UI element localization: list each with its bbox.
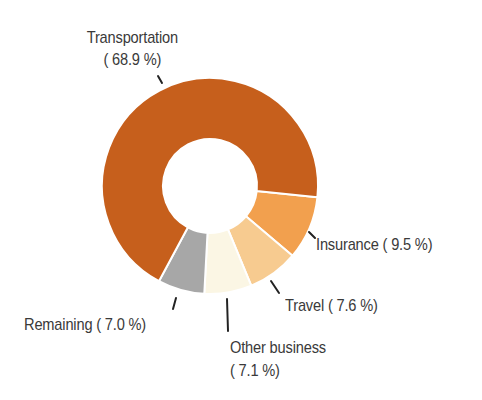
leader-line-travel [271,281,279,293]
label-remaining: Remaining ( 7.0 %) [24,315,146,335]
label-transportation-name: Transportation [79,28,186,48]
leader-line-remaining [173,298,176,309]
label-other-business-value: ( 7.1 %) [230,361,326,381]
donut-chart: Transportation ( 68.9 %) Insurance ( 9.5… [0,0,482,400]
label-other-business-name: Other business [230,338,326,358]
label-remaining-text: Remaining ( 7.0 %) [24,315,146,335]
label-transportation-value: ( 68.9 %) [79,50,186,70]
label-travel: Travel ( 7.6 %) [285,296,378,316]
label-insurance: Insurance ( 9.5 %) [316,235,432,255]
leader-line-insurance [309,232,315,238]
label-transportation: Transportation ( 68.9 %) [79,28,186,70]
label-travel-text: Travel ( 7.6 %) [285,296,378,316]
label-other-business: Other business ( 7.1 %) [230,338,326,381]
leader-line-other-business [227,299,228,331]
label-insurance-text: Insurance ( 9.5 %) [316,235,432,255]
leader-line-transportation [158,76,162,83]
donut-slices [102,78,318,294]
